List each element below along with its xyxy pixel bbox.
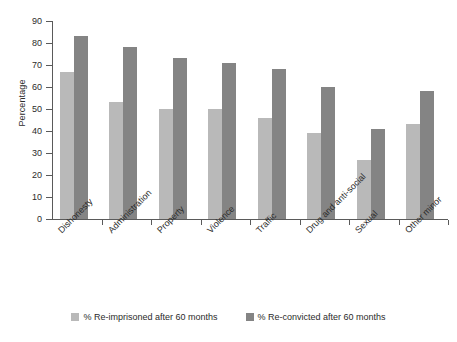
bar <box>60 72 74 219</box>
chart-legend: % Re-imprisoned after 60 months % Re-con… <box>0 312 457 322</box>
bar <box>406 124 420 219</box>
legend-label-re-imprisoned: % Re-imprisoned after 60 months <box>83 312 217 322</box>
legend-label-re-convicted: % Re-convicted after 60 months <box>258 312 386 322</box>
x-axis-tick <box>151 220 152 225</box>
y-axis-tick-label: 90 <box>18 17 42 26</box>
y-axis-tick <box>46 219 52 220</box>
x-axis-tick <box>102 220 103 225</box>
legend-swatch-icon-dark <box>246 313 254 321</box>
bar <box>357 160 371 219</box>
legend-item-re-convicted: % Re-convicted after 60 months <box>246 312 386 322</box>
y-axis-tick-label: 70 <box>18 61 42 70</box>
bar-chart: Percentage 0102030405060708090 Dishonest… <box>0 0 457 342</box>
y-axis-tick-label: 0 <box>18 215 42 224</box>
x-axis-tick <box>349 220 350 225</box>
bar <box>109 102 123 219</box>
plot-area <box>52 21 448 219</box>
x-axis-tick <box>201 220 202 225</box>
y-axis-tick-label: 10 <box>18 193 42 202</box>
bar <box>159 109 173 219</box>
y-axis-tick-label: 20 <box>18 171 42 180</box>
legend-swatch-icon-light <box>71 313 79 321</box>
bar <box>173 58 187 219</box>
x-axis-tick <box>250 220 251 225</box>
bar <box>272 69 286 219</box>
y-axis-tick-label: 60 <box>18 83 42 92</box>
legend-item-re-imprisoned: % Re-imprisoned after 60 months <box>71 312 217 322</box>
x-axis-tick <box>300 220 301 225</box>
y-axis-tick-label: 40 <box>18 127 42 136</box>
x-axis-tick <box>448 220 449 225</box>
bar <box>208 109 222 219</box>
x-axis-tick <box>399 220 400 225</box>
y-axis-tick-label: 50 <box>18 105 42 114</box>
bar <box>74 36 88 219</box>
bar <box>222 63 236 219</box>
bar <box>258 118 272 219</box>
bar <box>371 129 385 219</box>
y-axis-tick-label: 30 <box>18 149 42 158</box>
bar <box>123 47 137 219</box>
bar <box>307 133 321 219</box>
y-axis-tick-label: 80 <box>18 39 42 48</box>
